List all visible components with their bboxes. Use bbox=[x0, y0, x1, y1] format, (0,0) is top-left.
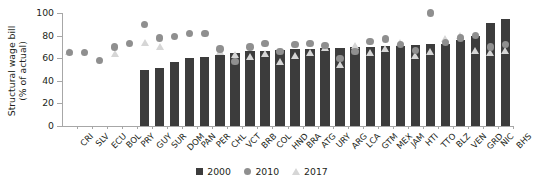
bar-chl bbox=[215, 55, 224, 126]
marker-2010-hti bbox=[412, 47, 419, 54]
x-tick-mark bbox=[513, 126, 514, 129]
y-tick-label: 0 bbox=[14, 120, 54, 131]
marker-2010-slv bbox=[81, 49, 88, 56]
marker-2010-chl bbox=[216, 45, 223, 52]
marker-2010-blz bbox=[442, 39, 449, 46]
bar-jam bbox=[396, 46, 405, 126]
x-tick-mark bbox=[303, 126, 304, 129]
x-tick-mark bbox=[468, 126, 469, 129]
x-tick-mark bbox=[288, 126, 289, 129]
marker-2017-grd bbox=[471, 47, 479, 54]
y-axis-title: Structural wage bill (% of actual) bbox=[6, 6, 28, 136]
x-tick-label-hti: HTI bbox=[423, 131, 440, 148]
marker-2010-brb bbox=[246, 43, 253, 50]
bar-bra bbox=[290, 49, 299, 126]
marker-2017-brb bbox=[246, 53, 254, 60]
x-tick-label-vct: VCT bbox=[244, 131, 263, 150]
x-tick-label-ury: URY bbox=[334, 131, 353, 150]
x-tick-label-blz: BLZ bbox=[454, 131, 472, 149]
x-tick-mark bbox=[393, 126, 394, 129]
bar-sur bbox=[155, 68, 164, 126]
bar-tto bbox=[426, 44, 435, 126]
x-tick-label-ven: VEN bbox=[469, 131, 488, 150]
x-tick-mark bbox=[438, 126, 439, 129]
x-tick-mark bbox=[408, 126, 409, 129]
x-tick-mark bbox=[227, 126, 228, 129]
bar-bhs bbox=[501, 19, 510, 126]
marker-2017-col bbox=[261, 50, 269, 57]
legend-item-2000: 2000 bbox=[196, 166, 231, 177]
bar-mex bbox=[381, 46, 390, 126]
x-tick-mark bbox=[423, 126, 424, 129]
marker-2010-gtm bbox=[366, 38, 373, 45]
marker-2010-atg bbox=[306, 40, 313, 47]
x-tick-mark bbox=[77, 126, 78, 129]
plot-area: 020406080100CRISLVECUBOLPRYGUYSURDOMPANP… bbox=[62, 13, 513, 126]
bar-lca bbox=[350, 47, 359, 126]
bar-col bbox=[260, 51, 269, 126]
marker-2017-bra bbox=[291, 52, 299, 59]
marker-2010-guy bbox=[141, 21, 148, 28]
marker-2010-per bbox=[201, 30, 208, 37]
y-tick-label: 100 bbox=[14, 7, 54, 18]
x-tick-mark bbox=[212, 126, 213, 129]
x-tick-mark bbox=[137, 126, 138, 129]
x-tick-mark bbox=[257, 126, 258, 129]
marker-2010-nic bbox=[487, 43, 494, 50]
marker-2010-sur bbox=[156, 34, 163, 41]
x-tick-mark bbox=[107, 126, 108, 129]
x-tick-mark bbox=[272, 126, 273, 129]
marker-2017-atg bbox=[306, 49, 314, 56]
marker-2010-pan bbox=[186, 30, 193, 37]
y-tick-label: 80 bbox=[14, 30, 54, 41]
x-tick-label-pry: PRY bbox=[138, 131, 156, 149]
x-tick-mark bbox=[167, 126, 168, 129]
bar-gtm bbox=[366, 47, 375, 126]
marker-2010-cri bbox=[66, 49, 73, 56]
bar-ury bbox=[320, 48, 329, 126]
x-tick-label-cri: CRI bbox=[78, 131, 95, 148]
x-tick-label-sur: SUR bbox=[169, 131, 188, 150]
bar-ven bbox=[456, 40, 465, 126]
legend-item-2010: 2010 bbox=[244, 166, 279, 177]
y-tick-label: 20 bbox=[14, 97, 54, 108]
marker-2017-tto bbox=[426, 48, 434, 55]
y-tick-mark bbox=[57, 36, 62, 37]
x-tick-mark bbox=[378, 126, 379, 129]
marker-2010-pry bbox=[126, 40, 133, 47]
marker-2010-lca bbox=[351, 48, 358, 55]
bar-nic bbox=[486, 23, 495, 126]
x-tick-mark bbox=[363, 126, 364, 129]
marker-2017-hnd bbox=[276, 58, 284, 65]
marker-2010-arg bbox=[336, 55, 343, 62]
y-tick-mark bbox=[57, 103, 62, 104]
y-tick-mark bbox=[57, 13, 62, 14]
bar-per bbox=[200, 57, 209, 126]
y-tick-label: 40 bbox=[14, 75, 54, 86]
y-tick-mark bbox=[57, 58, 62, 59]
legend-label-2017: 2017 bbox=[304, 166, 328, 177]
bar-dom bbox=[170, 62, 179, 126]
marker-2010-ven bbox=[457, 34, 464, 41]
marker-2017-guy bbox=[141, 39, 149, 46]
bar-brb bbox=[245, 51, 254, 126]
y-tick-label: 60 bbox=[14, 52, 54, 63]
x-tick-mark bbox=[453, 126, 454, 129]
bar-atg bbox=[305, 49, 314, 126]
x-tick-label-per: PER bbox=[214, 131, 233, 150]
x-tick-mark bbox=[318, 126, 319, 129]
x-tick-label-slv: SLV bbox=[93, 131, 111, 149]
x-tick-label-lca: LCA bbox=[364, 131, 383, 150]
marker-2017-arg bbox=[336, 61, 344, 68]
marker-2010-ecu bbox=[96, 57, 103, 64]
marker-2010-dom bbox=[171, 33, 178, 40]
chart-legend: 2000 2010 2017 bbox=[0, 166, 524, 177]
x-tick-label-bhs: BHS bbox=[515, 131, 534, 150]
bar-pan bbox=[185, 58, 194, 126]
legend-label-2010: 2010 bbox=[255, 166, 279, 177]
legend-circle-icon bbox=[244, 168, 252, 176]
marker-2010-hnd bbox=[276, 48, 283, 55]
marker-2017-bol bbox=[111, 50, 119, 57]
y-tick-mark bbox=[57, 126, 62, 127]
